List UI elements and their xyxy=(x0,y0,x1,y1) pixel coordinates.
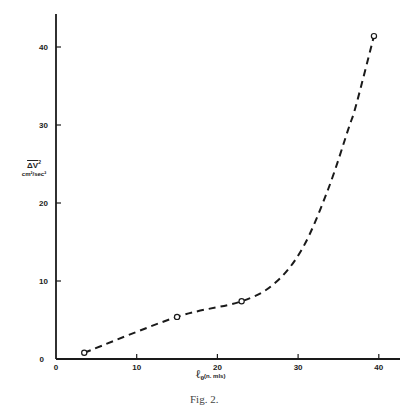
y-axis-label: ΔV2 cm²/sec² xyxy=(14,158,54,179)
x-tick-label: 10 xyxy=(132,363,141,372)
y-tick-label: 0 xyxy=(40,355,45,364)
chart: 010203040010203040 xyxy=(0,0,414,418)
x-tick-label: 30 xyxy=(294,363,303,372)
y-axis-label-sup: 2 xyxy=(38,159,41,165)
data-point xyxy=(239,299,244,304)
x-axis-label-symbol: ℓ₀ xyxy=(196,367,204,381)
ticks: 010203040010203040 xyxy=(39,43,384,372)
y-tick-label: 20 xyxy=(39,199,48,208)
x-tick-label: 40 xyxy=(374,363,383,372)
axes xyxy=(56,14,400,359)
y-tick-label: 40 xyxy=(39,43,48,52)
x-tick-label: 0 xyxy=(54,363,59,372)
data-points xyxy=(82,33,377,355)
x-axis-label: ℓ₀(n. mls) xyxy=(196,367,225,382)
y-axis-label-symbol: ΔV xyxy=(27,161,38,170)
data-point xyxy=(174,314,179,319)
y-tick-label: 30 xyxy=(39,121,48,130)
x-axis-label-unit: (n. mls) xyxy=(204,373,225,379)
data-point xyxy=(82,350,87,355)
y-tick-label: 10 xyxy=(39,277,48,286)
figure-caption: Fig. 2. xyxy=(190,393,218,405)
data-curve xyxy=(84,36,374,353)
y-axis-label-unit: cm²/sec² xyxy=(14,170,54,179)
data-point xyxy=(371,33,376,38)
